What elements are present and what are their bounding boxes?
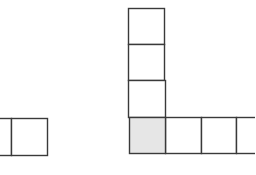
square-cell	[129, 45, 165, 81]
square-cell	[129, 81, 166, 118]
square-cell	[129, 9, 165, 45]
square-cell	[166, 118, 202, 154]
diagram-canvas	[0, 0, 255, 175]
square-cell	[0, 119, 12, 156]
square-cell	[237, 118, 256, 154]
left-square-strip	[0, 119, 48, 156]
square-cell	[202, 118, 237, 154]
shaded-corner-square	[130, 118, 166, 154]
l-shaped-square-arrangement	[129, 9, 256, 154]
square-cell	[12, 119, 48, 156]
